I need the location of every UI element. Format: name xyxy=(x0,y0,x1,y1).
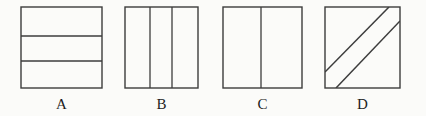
label-a: A xyxy=(20,97,103,112)
square-b-graphic xyxy=(124,6,199,89)
square-d-outline xyxy=(325,7,400,88)
square-a-graphic xyxy=(20,6,103,89)
square-a-outline xyxy=(21,7,102,88)
figure-item-b: B xyxy=(124,0,199,116)
figure-item-a: A xyxy=(20,0,103,116)
square-c xyxy=(222,6,303,89)
square-d-diagonal-1 xyxy=(325,7,389,72)
label-b: B xyxy=(124,97,199,112)
square-a xyxy=(20,6,103,89)
square-b-outline xyxy=(125,7,198,88)
square-b xyxy=(124,6,199,89)
label-c: C xyxy=(222,97,303,112)
square-d-graphic xyxy=(324,6,401,89)
figure-canvas: A B C xyxy=(0,0,426,116)
figure-item-c: C xyxy=(222,0,303,116)
square-c-graphic xyxy=(222,6,303,89)
label-d: D xyxy=(324,97,401,112)
square-d xyxy=(324,6,401,89)
square-d-diagonal-2 xyxy=(336,21,400,88)
figure-item-d: D xyxy=(324,0,401,116)
square-c-outline xyxy=(223,7,302,88)
